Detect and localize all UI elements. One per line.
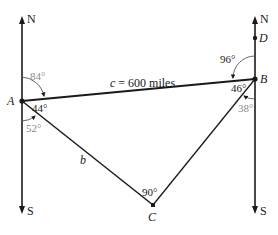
point-b [252, 76, 257, 81]
label-d: D [258, 31, 268, 45]
label-b: B [260, 72, 268, 86]
point-c [151, 203, 155, 207]
label-a: A [6, 94, 15, 108]
south-arrow-icon [252, 206, 258, 214]
point-a [19, 98, 24, 103]
north-arrow-icon [252, 16, 258, 24]
side-a [153, 79, 255, 205]
angle-44-label: 44° [32, 102, 47, 114]
north-arrow-icon [19, 16, 25, 24]
left-north-label: N [27, 12, 36, 26]
right-north-south-line [252, 16, 258, 214]
angle-84-label: 84° [30, 70, 45, 82]
side-b-label: b [80, 153, 86, 167]
angle-arc-38 [244, 96, 255, 99]
side-c-label: c = 600 miles [110, 76, 175, 90]
south-arrow-icon [19, 206, 25, 214]
angle-arc-52 [22, 116, 35, 121]
angle-96-label: 96° [220, 53, 235, 65]
triangle-diagram: N S N S A B C D c = 600 miles b 84° 44° … [0, 0, 278, 235]
side-b [22, 101, 153, 205]
angle-46-label: 46° [231, 82, 246, 94]
angle-90-label: 90° [142, 186, 157, 198]
label-c: C [148, 210, 157, 224]
right-south-label: S [260, 204, 267, 218]
angle-arc-96 [233, 56, 255, 78]
point-d [253, 36, 257, 40]
left-south-label: S [27, 204, 34, 218]
right-north-label: N [260, 12, 269, 26]
left-north-south-line [19, 16, 25, 214]
angle-52-label: 52° [26, 122, 41, 134]
angle-38-label: 38° [238, 102, 253, 114]
